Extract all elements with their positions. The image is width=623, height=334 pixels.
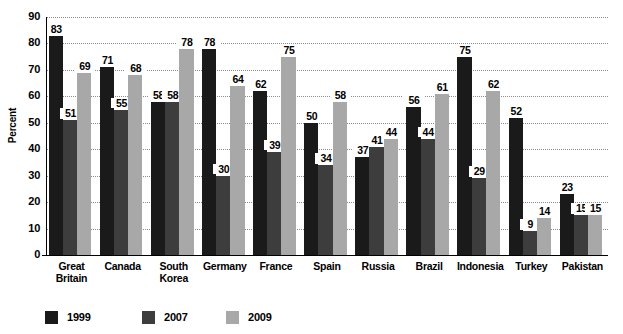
bar [100, 67, 114, 255]
bar [202, 49, 216, 255]
y-axis-tick: 80 [0, 37, 40, 49]
bar [537, 218, 551, 255]
bar [421, 139, 435, 255]
y-axis-tick-label: 30 [6, 170, 40, 181]
bar-value-label: 44 [381, 127, 402, 138]
bar-value-label: 78 [199, 37, 220, 48]
bar-value-label: 62 [483, 79, 504, 90]
bar-value-label: 62 [250, 79, 271, 90]
bar-value-label: 78 [176, 37, 197, 48]
bar [509, 118, 523, 256]
bar [77, 73, 91, 255]
bar [216, 176, 230, 255]
y-axis-tick-labels: 0102030405060708090 [0, 17, 40, 255]
bar-group: 231515 [560, 17, 603, 255]
bar [253, 91, 267, 255]
bar-value-label: 64 [227, 74, 248, 85]
bar-value-label: 83 [46, 24, 67, 35]
plot-area: 8351697155685858787830646239755034583741… [46, 17, 608, 255]
y-axis-tick-label: 20 [6, 196, 40, 207]
bar [355, 157, 369, 255]
bar-value-label: 58 [330, 90, 351, 101]
bar-value-label: 71 [97, 55, 118, 66]
bar [486, 91, 500, 255]
bar-value-label: 75 [454, 45, 475, 56]
y-axis-tick-label: 60 [6, 90, 40, 101]
bar-group: 715568 [100, 17, 143, 255]
bar [114, 110, 128, 255]
y-axis-line [46, 17, 47, 255]
bar-value-label: 52 [506, 106, 527, 117]
bar [49, 36, 63, 255]
bar-value-label: 23 [557, 182, 578, 193]
y-axis-tick-label: 10 [6, 223, 40, 234]
y-axis-tick: 20 [0, 196, 40, 208]
legend-label: 1999 [67, 312, 91, 323]
bar-value-label: 14 [534, 206, 555, 217]
bar-group: 835169 [49, 17, 92, 255]
bar [63, 120, 77, 255]
bar-group: 623975 [253, 17, 296, 255]
legend-item[interactable]: 1999 [45, 310, 91, 324]
y-axis-tick: 60 [0, 90, 40, 102]
bar-value-label: 68 [125, 63, 146, 74]
bar-chart: Percent 0102030405060708090 835169715568… [0, 0, 623, 334]
legend-swatch-icon [226, 311, 239, 324]
bar [179, 49, 193, 255]
y-axis-tick: 0 [0, 249, 40, 261]
bar [230, 86, 244, 255]
category-label-line: Korea [142, 273, 205, 285]
x-axis-category-label: Pakistan [551, 261, 614, 273]
y-axis-tick: 90 [0, 11, 40, 23]
bar [384, 139, 398, 255]
bar-value-label: 61 [432, 82, 453, 93]
bar-group: 783064 [202, 17, 245, 255]
bar [281, 57, 295, 255]
legend-item[interactable]: 2009 [226, 310, 272, 324]
legend-item[interactable]: 2007 [142, 310, 188, 324]
bar-group: 374144 [355, 17, 398, 255]
bar-value-label: 75 [278, 45, 299, 56]
y-axis-tick-label: 50 [6, 117, 40, 128]
bar [165, 102, 179, 255]
bar-value-label: 56 [403, 95, 424, 106]
y-axis-tick-label: 70 [6, 64, 40, 75]
bar [318, 165, 332, 255]
y-axis-tick-label: 0 [6, 249, 40, 260]
legend-swatch-icon [142, 311, 155, 324]
bar [588, 215, 602, 255]
category-label-line: Britain [40, 273, 103, 285]
bar [574, 215, 588, 255]
y-axis-tick: 30 [0, 170, 40, 182]
y-axis-tick: 10 [0, 223, 40, 235]
bar [151, 102, 165, 255]
legend-label: 2009 [248, 312, 272, 323]
bar [267, 152, 281, 255]
y-axis-tick: 50 [0, 117, 40, 129]
bar-group: 52914 [509, 17, 552, 255]
bar-value-label: 15 [585, 203, 606, 214]
bar [304, 123, 318, 255]
bar [435, 94, 449, 255]
y-axis-tick: 70 [0, 64, 40, 76]
bar [523, 231, 537, 255]
y-axis-tick-label: 90 [6, 11, 40, 22]
bar [457, 57, 471, 255]
bar [369, 147, 383, 255]
bar-group: 585878 [151, 17, 194, 255]
bar-group: 503458 [304, 17, 347, 255]
bar-group: 564461 [406, 17, 449, 255]
category-label-line: Pakistan [551, 261, 614, 273]
bar-value-label: 50 [301, 111, 322, 122]
y-axis-tick: 40 [0, 143, 40, 155]
legend-label: 2007 [164, 312, 188, 323]
legend-swatch-icon [45, 311, 58, 324]
x-axis-line [42, 255, 608, 256]
y-axis-tick-label: 80 [6, 37, 40, 48]
bar-value-label: 69 [74, 61, 95, 72]
bar-group: 752962 [457, 17, 500, 255]
bar [128, 75, 142, 255]
y-axis-tick-label: 40 [6, 143, 40, 154]
bar [333, 102, 347, 255]
bar [472, 178, 486, 255]
